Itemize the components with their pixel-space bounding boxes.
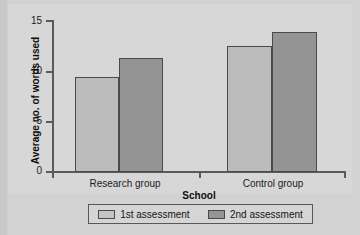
series-2-swatch-icon <box>208 210 225 219</box>
y-axis-title: Average no. of words used <box>30 26 41 176</box>
legend-label-2nd-assessment: 2nd assessment <box>230 209 303 220</box>
legend-item-2nd-assessment: 2nd assessment <box>208 209 303 220</box>
x-tick-left-edge <box>52 173 54 178</box>
legend: 1st assessment 2nd assessment <box>88 204 313 224</box>
legend-item-1st-assessment: 1st assessment <box>98 209 189 220</box>
legend-label-1st-assessment: 1st assessment <box>120 209 189 220</box>
bar-control-group-1st-assessment <box>227 46 272 172</box>
x-tick-middle <box>199 173 201 178</box>
x-axis-title: School <box>52 190 346 201</box>
bar-control-group-2nd-assessment <box>272 32 317 172</box>
y-axis-line <box>52 20 54 173</box>
y-tick-5 <box>46 121 52 123</box>
series-1-swatch-icon <box>98 210 115 219</box>
x-tick-label-research-group: Research group <box>60 178 190 189</box>
bar-research-group-1st-assessment <box>75 77 119 172</box>
x-tick-right-edge <box>344 173 346 178</box>
bar-chart-figure: 15 10 5 0 Average no. of words used Rese… <box>0 0 360 235</box>
y-tick-label-15: 15 <box>2 16 42 26</box>
y-tick-15 <box>46 20 52 22</box>
y-tick-10 <box>46 71 52 73</box>
x-tick-label-control-group: Control group <box>208 178 338 189</box>
bar-research-group-2nd-assessment <box>119 58 163 172</box>
